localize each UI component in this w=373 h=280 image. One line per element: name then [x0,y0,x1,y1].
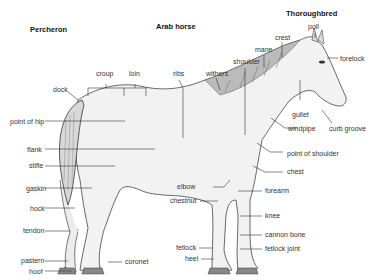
label-gaskin: gaskin [26,185,46,193]
label-crest: crest [275,34,290,42]
horse-anatomy-diagram: Percheron Arab horse Thoroughbred croup … [0,0,373,280]
label-point-of-hip: point of hip [10,118,44,126]
label-gullet: gullet [292,111,309,119]
label-mane: mane [255,46,273,54]
label-hock: hock [30,205,45,213]
label-forearm: forearm [265,187,289,195]
label-withers: withers [206,70,228,78]
label-fetlock-joint: fetlock joint [265,245,300,253]
label-fetlock: fetlock [176,244,196,252]
label-chestnut: chestnut [170,197,196,205]
label-dock: dock [53,86,68,94]
label-tendon: tendon [23,227,44,235]
label-shoulder: shoulder [233,58,260,66]
breed-title-percheron: Percheron [30,25,67,34]
label-forelock: forelock [340,55,365,63]
label-hoof: hoof [29,268,43,276]
label-ribs: ribs [173,70,184,78]
breed-title-arab: Arab horse [156,22,196,31]
label-loin: loin [129,70,140,78]
label-cannon-bone: cannon bone [265,231,305,239]
label-flank: flank [27,146,42,154]
label-knee: knee [265,212,280,220]
label-windpipe: windpipe [288,125,316,133]
label-point-of-shoulder: point of shoulder [287,150,339,158]
label-curb-groove: curb groove [329,125,366,133]
label-heel: heel [185,255,198,263]
label-poll: poll [308,23,319,31]
label-stifle: stifle [29,162,43,170]
label-chest: chest [287,168,304,176]
label-coronet: coronet [125,258,148,266]
label-croup: croup [96,70,114,78]
horse-illustration [0,0,373,280]
label-elbow: elbow [177,183,195,191]
label-pastern: pastern [21,257,44,265]
breed-title-thoroughbred: Thoroughbred [286,9,337,18]
